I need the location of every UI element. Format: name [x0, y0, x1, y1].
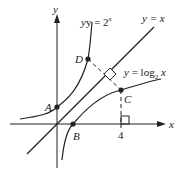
log-exp-diagram: x y y = x yy = 2x y = log2 x 4 A B C D [0, 0, 186, 175]
point-C [118, 87, 123, 92]
right-angle-marker-axis [121, 116, 129, 124]
exp-label: yy = 2x [80, 15, 113, 28]
x-arrow-icon [157, 121, 166, 127]
label-D: D [74, 53, 83, 65]
log-curve [62, 79, 161, 160]
point-A [54, 104, 59, 109]
y-arrow-icon [54, 14, 60, 23]
point-D [85, 56, 90, 61]
label-B: B [73, 130, 80, 142]
exp-curve [20, 22, 92, 119]
point-B [70, 121, 75, 126]
tick-4-label: 4 [118, 129, 124, 141]
y-axis-label: y [52, 3, 58, 15]
right-angle-marker [104, 68, 116, 80]
identity-label: y = x [141, 12, 165, 24]
identity-line [27, 27, 154, 154]
x-axis-label: x [168, 118, 174, 130]
label-C: C [124, 93, 132, 105]
label-A: A [44, 101, 52, 113]
